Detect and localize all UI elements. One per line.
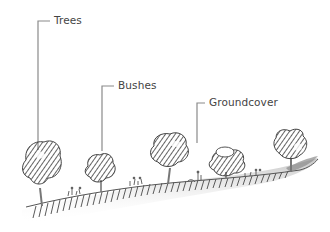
vegetation-layers-diagram: Trees Bushes Groundcover bbox=[0, 0, 330, 232]
leader-line-bushes bbox=[102, 86, 114, 151]
bush-2 bbox=[209, 147, 245, 179]
tree-1 bbox=[23, 141, 62, 206]
bush-1 bbox=[85, 154, 115, 192]
sketch-illustration bbox=[0, 0, 330, 232]
label-bushes: Bushes bbox=[118, 79, 157, 91]
label-groundcover: Groundcover bbox=[209, 96, 278, 108]
leader-line-groundcover bbox=[197, 103, 205, 143]
tree-2 bbox=[151, 133, 189, 184]
label-trees: Trees bbox=[54, 14, 82, 26]
leader-line-trees bbox=[38, 21, 50, 150]
